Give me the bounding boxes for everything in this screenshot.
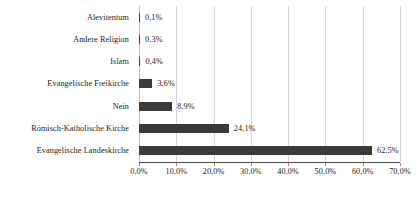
category-label: Nein [113,102,129,111]
plot-area: 0,1% 0,3% 0,4% 3,6% 8,9% 24,1% [139,6,400,162]
bar-series: 0,1% 0,3% 0,4% 3,6% 8,9% 24,1% [139,6,400,162]
category-label: Evangelische Freikirche [47,79,129,88]
x-axis-tick [176,163,177,166]
x-axis-tick-label: 40,0% [277,167,299,176]
x-axis-tick [325,163,326,166]
category-label-row: Evangelische Freikirche [0,73,134,95]
category-label: Römisch-Katholische Kirche [31,124,129,133]
bar-value-label: 3,6% [157,79,174,88]
bar-row: 0,3% [139,28,400,50]
category-label: Evangelische Landeskirche [37,146,129,155]
x-axis-tick [139,163,140,166]
category-label-row: Alevitentum [0,6,134,28]
x-axis-tick [400,163,401,166]
gridline [400,6,401,162]
bar-row: 62,5% [139,140,400,162]
bar-row: 3,6% [139,73,400,95]
x-axis-tick [288,163,289,166]
bar-value-label: 0,3% [145,35,162,44]
bar-chart: Alevitentum Andere Religion Islam Evange… [0,0,420,197]
bar-value-label: 24,1% [234,124,256,133]
category-label-row: Römisch-Katholische Kirche [0,117,134,139]
category-label: Islam [110,57,129,66]
bar [139,13,140,22]
bar [139,102,172,111]
bar-row: 8,9% [139,95,400,117]
bar-value-label: 8,9% [177,102,194,111]
bar [139,124,229,133]
category-axis-labels: Alevitentum Andere Religion Islam Evange… [0,6,134,162]
x-axis-tick [363,163,364,166]
bar-value-label: 0,1% [145,13,162,22]
x-axis-tick-label: 10,0% [165,167,187,176]
bar-row: 0,4% [139,51,400,73]
x-axis-tick-label: 50,0% [315,167,337,176]
x-axis-tick-label: 0,0% [130,167,147,176]
category-label: Andere Religion [73,35,129,44]
category-label: Alevitentum [87,13,129,22]
bar [139,35,140,44]
bar-row: 0,1% [139,6,400,28]
x-axis-tick-labels: 0,0%10,0%20,0%30,0%40,0%50,0%60,0%70,0% [139,167,400,183]
x-axis-tick [214,163,215,166]
category-label-row: Evangelische Landeskirche [0,140,134,162]
x-axis-tick-label: 30,0% [240,167,262,176]
x-axis-tick-label: 20,0% [203,167,225,176]
category-label-row: Islam [0,51,134,73]
x-axis-tick-label: 70,0% [389,167,411,176]
bar-row: 24,1% [139,117,400,139]
category-label-row: Andere Religion [0,28,134,50]
bar [139,79,152,88]
x-axis-tick [251,163,252,166]
x-axis-tick-label: 60,0% [352,167,374,176]
bar [139,57,140,66]
bar-value-label: 0,4% [145,57,162,66]
bar [139,146,372,155]
bar-value-label: 62,5% [377,146,399,155]
category-label-row: Nein [0,95,134,117]
